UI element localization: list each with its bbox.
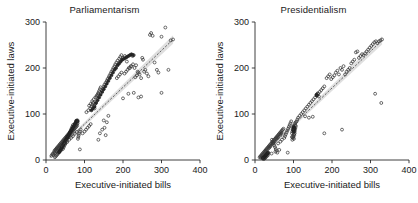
data-point [160,35,163,38]
x-tick-label: 300 [154,165,169,175]
data-point [132,91,135,94]
data-point-filled [132,54,135,57]
y-tick-label: 200 [25,63,40,73]
x-axis-title: Executive-initiated bills [284,179,380,190]
data-point [374,92,377,95]
data-point [157,71,160,74]
data-point-filled [267,151,270,154]
data-point-filled [292,128,295,131]
data-point [341,128,344,131]
y-tick-label: 100 [234,109,249,119]
data-point [140,95,143,98]
data-point [167,68,170,71]
data-point-filled [261,157,264,160]
data-points [50,26,175,159]
y-tick-label: 100 [25,109,40,119]
chart-panel-presidentialism: Presidentialism 01002003004000100200300E… [209,0,418,203]
x-tick-label: 300 [363,165,378,175]
x-tick-label: 100 [286,165,301,175]
x-tick-label: 200 [115,165,130,175]
data-point-filled [58,151,61,154]
data-point [78,148,81,151]
data-point [164,26,167,29]
data-point [97,138,100,141]
data-point [102,119,105,122]
y-axis-title: Executive-initiated laws [214,41,225,140]
data-point [125,60,128,63]
x-tick-label: 0 [252,165,257,175]
figure-root: Parliamentarism 01002003004000100200300E… [0,0,418,203]
y-axis-title: Executive-initiated laws [5,41,16,140]
data-point [337,73,340,76]
y-tick-label: 200 [234,63,249,73]
x-tick-label: 0 [43,165,48,175]
data-point [103,126,106,129]
data-point [380,102,383,105]
y-tick-label: 0 [244,155,249,165]
data-point-filled [315,94,318,97]
data-point [151,34,154,37]
data-point [107,114,110,117]
data-point [147,75,150,78]
data-point [160,91,163,94]
data-point [286,151,289,154]
x-tick-label: 400 [401,165,416,175]
x-tick-label: 100 [77,165,92,175]
x-tick-label: 400 [192,165,207,175]
y-tick-label: 300 [25,17,40,27]
y-tick-label: 0 [35,155,40,165]
scatter-plot-presidentialism: 01002003004000100200300Executive-initiat… [209,0,418,203]
x-axis-title: Executive-initiated bills [75,179,171,190]
data-point-filled [93,105,96,108]
data-point [270,152,273,155]
data-point [323,132,326,135]
chart-panel-parliamentarism: Parliamentarism 01002003004000100200300E… [0,0,209,203]
data-point [307,116,310,119]
y-tick-label: 300 [234,17,249,27]
data-point [140,77,143,80]
data-point [122,97,125,100]
data-point [342,65,345,68]
data-point [104,134,107,137]
scatter-plot-parliamentarism: 01002003004000100200300Executive-initiat… [0,0,209,203]
data-point [98,132,101,135]
data-point [311,115,314,118]
data-point [105,121,108,124]
data-point [127,92,130,95]
data-point [135,64,138,67]
x-tick-label: 200 [324,165,339,175]
data-point [153,61,156,64]
